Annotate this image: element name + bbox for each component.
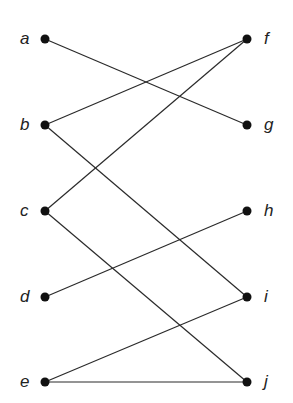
node-label-e: e [20,372,29,391]
edges [45,39,247,382]
bipartite-graph: abcdefghij [0,0,293,403]
node-label-d: d [20,287,30,306]
node-label-f: f [264,29,271,48]
node-b [41,121,50,130]
node-label-h: h [264,201,273,220]
node-d [41,293,50,302]
node-label-c: c [20,201,29,220]
node-h [243,207,252,216]
node-label-i: i [264,287,269,306]
edge-d-h [45,211,247,297]
node-f [243,35,252,44]
edge-e-i [45,297,247,382]
node-label-g: g [264,115,274,134]
labels: abcdefghij [20,29,274,391]
node-g [243,121,252,130]
node-label-b: b [20,115,29,134]
node-i [243,293,252,302]
edge-b-i [45,125,247,297]
node-e [41,378,50,387]
node-label-a: a [20,29,29,48]
node-label-j: j [262,372,269,391]
node-a [41,35,50,44]
node-j [243,378,252,387]
node-c [41,207,50,216]
edge-c-f [45,39,247,211]
edge-c-j [45,211,247,382]
